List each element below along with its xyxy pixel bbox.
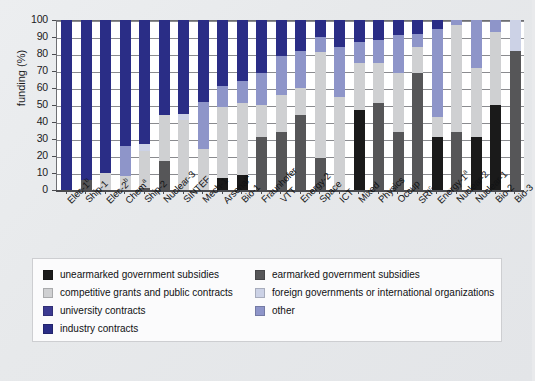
bar-segment [120, 20, 131, 146]
bar-segment [451, 25, 462, 132]
bar[interactable] [198, 20, 209, 190]
bar-segment [237, 103, 248, 174]
bar[interactable] [315, 20, 326, 190]
legend-label: university contracts [60, 305, 146, 316]
bar[interactable] [178, 20, 189, 190]
legend-color-swatch [43, 288, 53, 298]
bar-segment [471, 20, 482, 68]
chart-legend: unearmarked government subsidiescompetit… [32, 258, 502, 342]
bar-segment [412, 47, 423, 73]
bar[interactable] [490, 20, 501, 190]
bar-segment [432, 29, 443, 117]
bar-segment [237, 20, 248, 81]
bar-segment [334, 47, 345, 96]
bar-segment [334, 20, 345, 47]
bar[interactable] [61, 20, 72, 190]
legend-color-swatch [43, 324, 53, 334]
legend-item[interactable]: unearmarked government subsidies [43, 266, 233, 283]
legend-color-swatch [255, 270, 265, 280]
bar-segment [198, 20, 209, 102]
legend-item[interactable]: earmarked government subsidies [255, 266, 494, 283]
bar-segment [276, 56, 287, 95]
bar-segment [256, 20, 267, 73]
bar-segment [217, 86, 228, 106]
bar-segment [276, 20, 287, 56]
bar-segment [432, 20, 443, 29]
legend-column: earmarked government subsidiesforeign go… [255, 266, 494, 320]
bar[interactable] [295, 20, 306, 190]
bar[interactable] [510, 20, 521, 190]
y-tick-label: 60 [22, 81, 48, 93]
legend-item[interactable]: university contracts [43, 302, 233, 319]
legend-label: industry contracts [60, 323, 138, 334]
y-tick-label: 0 [22, 183, 48, 195]
legend-item[interactable]: foreign governments or international org… [255, 284, 494, 301]
legend-item[interactable]: other [255, 302, 494, 319]
bar[interactable] [139, 20, 150, 190]
bar-segment [217, 107, 228, 178]
legend-color-swatch [43, 270, 53, 280]
legend-item[interactable]: industry contracts [43, 320, 233, 337]
legend-color-swatch [43, 306, 53, 316]
bar[interactable] [159, 20, 170, 190]
bar-segment [81, 20, 92, 180]
bar[interactable] [432, 20, 443, 190]
bar[interactable] [354, 20, 365, 190]
bar-segment [100, 20, 111, 173]
bar-segment [373, 20, 384, 40]
legend-color-swatch [255, 306, 265, 316]
bar[interactable] [100, 20, 111, 190]
bar-segment [315, 37, 326, 52]
bar[interactable] [237, 20, 248, 190]
bar-segment [159, 115, 170, 161]
bar-segment [432, 137, 443, 190]
bar-segment [471, 68, 482, 138]
bar[interactable] [471, 20, 482, 190]
legend-item[interactable]: competitive grants and public contracts [43, 284, 233, 301]
bar-segment [373, 103, 384, 190]
bar-segment [198, 102, 209, 150]
bar-segment [178, 20, 189, 114]
legend-label: earmarked government subsidies [272, 269, 420, 280]
bar-segment [412, 73, 423, 190]
bar-segment [295, 88, 306, 115]
bar-segment [354, 20, 365, 42]
bar-segment [393, 20, 404, 35]
bar[interactable] [334, 20, 345, 190]
y-tick-label: 20 [22, 149, 48, 161]
y-tick-label: 80 [22, 47, 48, 59]
bar[interactable] [276, 20, 287, 190]
legend-label: foreign governments or international org… [272, 287, 494, 298]
bar-segment [315, 52, 326, 157]
bar[interactable] [412, 20, 423, 190]
bar[interactable] [373, 20, 384, 190]
bar-segment [334, 97, 345, 191]
bar-segment [490, 32, 501, 105]
bar-segment [295, 20, 306, 51]
bar-segment [354, 63, 365, 111]
bar-segment [159, 20, 170, 115]
bar[interactable] [81, 20, 92, 190]
bar[interactable] [451, 20, 462, 190]
bar-segment [354, 42, 365, 62]
legend-label: other [272, 305, 295, 316]
legend-color-swatch [255, 288, 265, 298]
bar-segment [432, 117, 443, 137]
bar[interactable] [393, 20, 404, 190]
bar-segment [178, 114, 189, 121]
bar-segment [139, 144, 150, 151]
bar-segment [139, 20, 150, 144]
y-tick-label: 50 [22, 98, 48, 110]
bar[interactable] [120, 20, 131, 190]
bar-segment [373, 40, 384, 62]
bar-segment [354, 110, 365, 190]
bar[interactable] [256, 20, 267, 190]
bar-segment [490, 20, 501, 32]
bar[interactable] [217, 20, 228, 190]
y-tick-label: 70 [22, 64, 48, 76]
bar-segment [276, 95, 287, 132]
bar-segment [393, 73, 404, 133]
bar-segment [295, 51, 306, 88]
bar-segment [217, 20, 228, 86]
